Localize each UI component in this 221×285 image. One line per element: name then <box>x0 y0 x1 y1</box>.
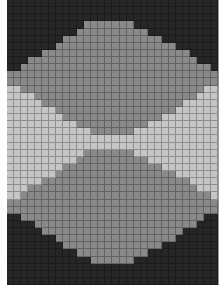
grid-cell <box>105 0 112 7</box>
grid-cell <box>35 128 42 135</box>
grid-cell <box>14 264 21 271</box>
grid-cell <box>56 93 63 100</box>
grid-cell <box>56 29 63 36</box>
grid-cell <box>14 171 21 178</box>
grid-cell <box>7 71 14 78</box>
grid-cell <box>56 135 63 142</box>
grid-cell <box>70 200 77 207</box>
grid-cell <box>176 150 183 157</box>
grid-cell <box>14 278 21 285</box>
grid-cell <box>49 114 56 121</box>
grid-cell <box>35 100 42 107</box>
grid-cell <box>56 50 63 57</box>
grid-cell <box>190 192 197 199</box>
grid-cell <box>105 235 112 242</box>
grid-cell <box>14 78 21 85</box>
grid-cell <box>141 278 148 285</box>
grid-cell <box>141 78 148 85</box>
grid-cell <box>197 21 204 28</box>
grid-cell <box>91 78 98 85</box>
grid-cell <box>127 114 134 121</box>
grid-cell <box>112 29 119 36</box>
grid-cell <box>105 128 112 135</box>
grid-cell <box>63 178 70 185</box>
grid-cell <box>155 121 162 128</box>
grid-cell <box>148 86 155 93</box>
grid-cell <box>169 171 176 178</box>
grid-cell <box>211 164 218 171</box>
grid-cell <box>77 192 84 199</box>
grid-cell <box>70 242 77 249</box>
grid-cell <box>176 207 183 214</box>
grid-cell <box>42 29 49 36</box>
grid-cell <box>56 235 63 242</box>
grid-cell <box>148 29 155 36</box>
grid-cell <box>190 0 197 7</box>
grid-cell <box>42 7 49 14</box>
grid-cell <box>14 207 21 214</box>
grid-cell <box>127 278 134 285</box>
grid-cell <box>70 43 77 50</box>
grid-cell <box>204 71 211 78</box>
grid-cell <box>98 121 105 128</box>
grid-cell <box>112 221 119 228</box>
grid-cell <box>98 100 105 107</box>
grid-cell <box>35 86 42 93</box>
grid-cell <box>204 100 211 107</box>
grid-cell <box>148 257 155 264</box>
grid-cell <box>77 114 84 121</box>
grid-cell <box>176 71 183 78</box>
grid-cell <box>162 185 169 192</box>
grid-cell <box>14 235 21 242</box>
grid-cell <box>7 185 14 192</box>
grid-cell <box>155 86 162 93</box>
grid-cell <box>7 128 14 135</box>
grid-cell <box>120 249 127 256</box>
grid-cell <box>63 71 70 78</box>
grid-cell <box>70 143 77 150</box>
grid-cell <box>141 21 148 28</box>
grid-cell <box>183 114 190 121</box>
grid-cell <box>91 57 98 64</box>
grid-cell <box>42 157 49 164</box>
grid-cell <box>21 29 28 36</box>
grid-cell <box>77 228 84 235</box>
grid-cell <box>141 214 148 221</box>
grid-cell <box>70 185 77 192</box>
grid-cell <box>42 214 49 221</box>
grid-cell <box>49 21 56 28</box>
grid-cell <box>49 178 56 185</box>
grid-cell <box>42 278 49 285</box>
grid-cell <box>49 249 56 256</box>
grid-cell <box>134 164 141 171</box>
grid-cell <box>112 107 119 114</box>
grid-cell <box>63 278 70 285</box>
grid-cell <box>21 192 28 199</box>
grid-cell <box>211 185 218 192</box>
grid-cell <box>120 78 127 85</box>
grid-cell <box>183 107 190 114</box>
grid-cell <box>7 7 14 14</box>
grid-cell <box>112 0 119 7</box>
grid-cell <box>204 271 211 278</box>
grid-cell <box>49 78 56 85</box>
grid-cell <box>127 0 134 7</box>
grid-cell <box>91 21 98 28</box>
grid-cell <box>84 21 91 28</box>
grid-cell <box>190 71 197 78</box>
grid-cell <box>63 235 70 242</box>
grid-cell <box>120 271 127 278</box>
grid-cell <box>169 221 176 228</box>
grid-cell <box>98 157 105 164</box>
grid-cell <box>134 107 141 114</box>
grid-cell <box>105 278 112 285</box>
grid-cell <box>28 178 35 185</box>
grid-cell <box>169 135 176 142</box>
grid-cell <box>105 143 112 150</box>
grid-cell <box>197 50 204 57</box>
grid-cell <box>56 185 63 192</box>
grid-cell <box>35 71 42 78</box>
grid-cell <box>120 114 127 121</box>
grid-cell <box>155 128 162 135</box>
grid-cell <box>162 78 169 85</box>
